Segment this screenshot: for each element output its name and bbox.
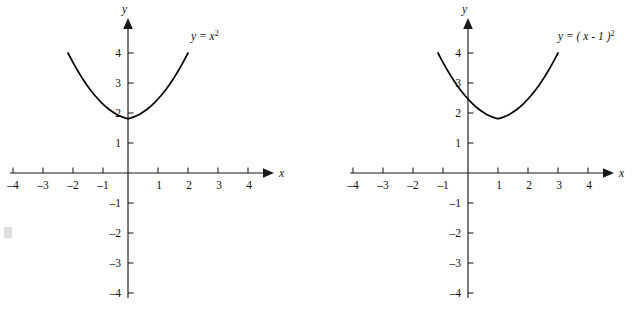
right-plot: x y –4 –3 –2 –1 1 2 3 4 4 3 2 1 –1 –2	[346, 3, 625, 299]
left-x-tick-label: 4	[246, 179, 252, 191]
left-x-ticks	[13, 168, 248, 174]
left-equation-exponent: 2	[215, 29, 219, 38]
right-y-tick-label: –3	[449, 257, 462, 269]
right-x-axis-arrow-icon	[603, 168, 614, 178]
left-x-tick-label: 2	[186, 179, 192, 191]
plots-canvas: x y –4 –3 –2 –1 1 2 3 4 4 3 2 1 –1 –2	[0, 0, 636, 309]
right-x-axis-label: x	[618, 167, 625, 179]
left-x-axis-arrow-icon	[263, 168, 274, 178]
left-y-axis	[123, 18, 133, 298]
left-x-tick-label: –3	[36, 179, 49, 191]
left-y-tick-label: –1	[109, 197, 122, 209]
right-x-tick-label: –1	[436, 179, 449, 191]
right-y-tick-label: 3	[455, 77, 461, 89]
right-x-tick-label: 4	[586, 179, 592, 191]
right-x-tick-label: 2	[526, 179, 532, 191]
left-x-tick-label: 1	[156, 179, 162, 191]
left-x-tick-label: –2	[66, 179, 79, 191]
right-equation-text: y = ( x - 1 )	[557, 30, 611, 43]
left-x-axis-label: x	[278, 167, 285, 179]
left-y-tick-label: 3	[115, 77, 121, 89]
right-y-axis-arrow-icon	[463, 18, 473, 29]
right-y-tick-label: 2	[455, 107, 461, 119]
right-y-tick-label: –4	[449, 287, 462, 299]
left-y-axis-label: y	[121, 3, 128, 16]
left-plot: x y –4 –3 –2 –1 1 2 3 4 4 3 2 1 –1 –2	[6, 3, 285, 299]
left-equation-label: y = x2	[190, 29, 219, 43]
right-x-tick-labels: –4 –3 –2 –1 1 2 3 4	[346, 179, 592, 191]
right-x-tick-label: 1	[496, 179, 502, 191]
left-x-axis	[10, 168, 274, 178]
right-y-axis-label: y	[461, 3, 468, 16]
left-y-tick-label: 1	[115, 137, 121, 149]
right-x-tick-label: –2	[406, 179, 419, 191]
left-x-tick-labels: –4 –3 –2 –1 1 2 3 4	[6, 179, 252, 191]
left-y-tick-label: –3	[109, 257, 122, 269]
right-y-tick-label: 4	[455, 47, 461, 59]
right-equation-label: y = ( x - 1 )2	[557, 29, 614, 43]
right-equation-exponent: 2	[610, 29, 614, 38]
left-y-tick-label: –4	[109, 287, 122, 299]
parabola-comparison-figure: x y –4 –3 –2 –1 1 2 3 4 4 3 2 1 –1 –2	[0, 0, 636, 309]
right-x-tick-label: –4	[346, 179, 359, 191]
right-x-tick-label: 3	[556, 179, 562, 191]
right-x-ticks	[353, 168, 588, 174]
right-x-tick-label: –3	[376, 179, 389, 191]
left-x-tick-label: –1	[96, 179, 109, 191]
right-y-tick-label: 1	[455, 137, 461, 149]
left-y-axis-arrow-icon	[123, 18, 133, 29]
right-x-axis	[350, 168, 614, 178]
left-y-tick-label: –2	[109, 227, 122, 239]
right-y-tick-label: –2	[449, 227, 462, 239]
left-x-tick-label: –4	[6, 179, 19, 191]
left-y-tick-label: 4	[115, 47, 121, 59]
left-y-tick-label: 2	[115, 107, 121, 119]
right-y-axis	[463, 18, 473, 298]
left-equation-text: y = x	[190, 30, 216, 43]
right-y-tick-label: –1	[449, 197, 462, 209]
left-x-tick-label: 3	[216, 179, 222, 191]
